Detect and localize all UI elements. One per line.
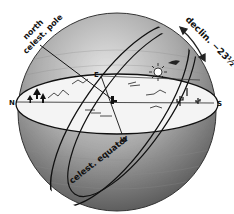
east-label: E [94, 71, 99, 79]
north-label: N [9, 99, 15, 107]
west-label: W [120, 136, 127, 144]
south-label: S [217, 100, 222, 108]
celestial-sphere-diagram: north celest. pole declin. −23½° celest.… [0, 0, 234, 214]
